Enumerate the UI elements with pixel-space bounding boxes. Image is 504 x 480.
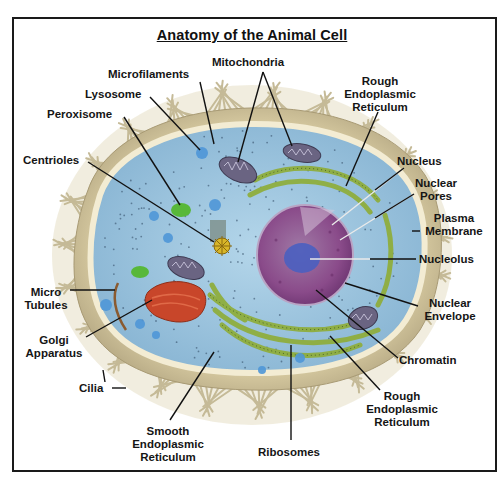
label-peroxisome: Peroxisome	[47, 108, 112, 121]
label-plasma-membrane: Plasma Membrane	[420, 212, 488, 238]
label-micro-tubules: Micro Tubules	[22, 286, 70, 312]
label-golgi-apparatus: Golgi Apparatus	[20, 334, 88, 360]
label-lysosome: Lysosome	[85, 88, 141, 101]
nucleolus-shape	[284, 243, 320, 273]
label-microfilaments: Microfilaments	[108, 68, 189, 81]
label-nuclear-pores: Nuclear Pores	[410, 177, 462, 203]
label-nucleus: Nucleus	[397, 155, 442, 168]
label-ribosomes: Ribosomes	[258, 446, 320, 459]
label-nucleolus: Nucleolus	[419, 253, 474, 266]
label-rough-er-bottom: Rough Endoplasmic Reticulum	[363, 390, 441, 429]
label-nuclear-envelope: Nuclear Envelope	[418, 297, 482, 323]
label-rough-er-top: Rough Endoplasmic Reticulum	[343, 75, 417, 114]
label-centrioles: Centrioles	[23, 154, 79, 167]
peroxisome-shape	[171, 203, 191, 217]
label-smooth-er: Smooth Endoplasmic Reticulum	[120, 425, 216, 464]
label-chromatin: Chromatin	[399, 354, 457, 367]
label-cilia: Cilia	[79, 382, 103, 395]
label-mitochondria: Mitochondria	[212, 56, 284, 69]
